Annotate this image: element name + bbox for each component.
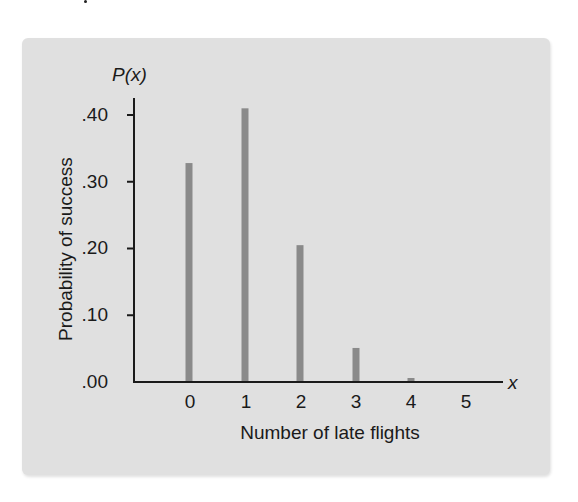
y-axis-title: Probability of success bbox=[55, 157, 77, 341]
x-tick-label: 3 bbox=[341, 392, 371, 412]
x-axis-title: Number of late flights bbox=[150, 422, 510, 444]
x-tick-label: 4 bbox=[396, 392, 426, 412]
x-axis-symbol: x bbox=[508, 372, 518, 394]
bar-1 bbox=[242, 108, 249, 382]
chart: P(x) x .00 .10 .20 .30 .40 0 1 2 3 4 5 N… bbox=[0, 0, 578, 502]
bar-0 bbox=[186, 163, 193, 382]
y-axis-symbol: P(x) bbox=[112, 64, 147, 86]
x-tick-label: 0 bbox=[175, 392, 205, 412]
bars bbox=[186, 108, 415, 382]
y-tick-label: .00 bbox=[58, 372, 108, 392]
bar-2 bbox=[297, 245, 304, 382]
x-tick-label: 1 bbox=[231, 392, 261, 412]
y-ticks bbox=[127, 115, 134, 315]
x-tick-label: 2 bbox=[286, 392, 316, 412]
y-tick-label: .40 bbox=[58, 105, 108, 125]
x-tick-label: 5 bbox=[451, 392, 481, 412]
bar-3 bbox=[353, 348, 360, 382]
